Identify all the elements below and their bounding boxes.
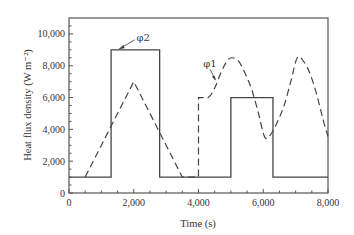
phi2-label: φ2 (137, 32, 150, 43)
y-tick-label: 2,000 (43, 156, 66, 167)
x-tick-label: 2,000 (123, 197, 146, 208)
phi1-label: φ1 (203, 58, 216, 69)
y-tick-label: 10,000 (38, 28, 66, 39)
phi2-arrow-head (119, 45, 125, 50)
phi1-arrow-head (212, 76, 216, 81)
y-tick-label: 4,000 (43, 124, 66, 135)
x-tick-label: 6,000 (252, 197, 275, 208)
y-tick-label: 8,000 (43, 60, 66, 71)
y-tick-label: 6,000 (43, 92, 66, 103)
annotation-layer: φ2φ1 (119, 32, 217, 81)
x-axis-title: Time (s) (180, 218, 216, 230)
series-layer (69, 50, 328, 177)
y-axis-title: Heat flux density (W m⁻²) (22, 49, 34, 161)
x-tick-label: 0 (67, 197, 72, 208)
ticks-layer: 02,0004,0006,0008,00002,0004,0006,0008,0… (38, 26, 340, 208)
x-tick-label: 4,000 (187, 197, 210, 208)
series-phi2-solid (69, 50, 328, 177)
y-tick-label: 0 (60, 188, 65, 199)
chart: 02,0004,0006,0008,00002,0004,0006,0008,0… (0, 0, 354, 235)
series-phi1-dashed (85, 57, 328, 178)
x-tick-label: 8,000 (317, 197, 340, 208)
